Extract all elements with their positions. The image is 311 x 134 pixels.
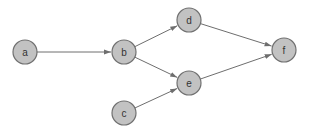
node-b: b	[112, 40, 136, 64]
node-a: a	[13, 40, 37, 64]
node-label: f	[283, 45, 286, 56]
node-label: d	[186, 15, 192, 26]
edge-b-e	[135, 57, 177, 77]
edge-e-f	[200, 54, 271, 79]
node-label: b	[121, 47, 127, 58]
edges-layer	[37, 24, 272, 108]
node-label: c	[122, 108, 127, 119]
node-c: c	[112, 101, 136, 125]
edge-b-d	[135, 26, 178, 47]
node-e: e	[177, 71, 201, 95]
node-d: d	[177, 8, 201, 32]
node-label: a	[22, 47, 28, 58]
node-f: f	[272, 38, 296, 62]
edge-d-f	[200, 24, 271, 46]
edge-c-e	[135, 88, 177, 108]
node-label: e	[186, 78, 192, 89]
graph-canvas: abcdef	[0, 0, 311, 134]
